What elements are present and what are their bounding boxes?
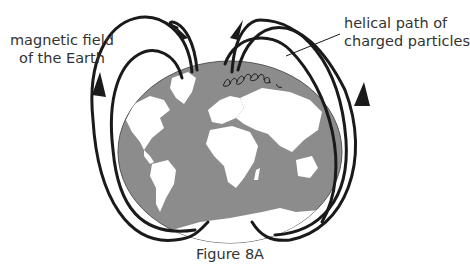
- magnetic-field-label-line2: of the Earth: [10, 49, 114, 67]
- magnetic-field-label: magnetic field of the Earth: [10, 31, 114, 67]
- helix-label-pointer: [286, 34, 340, 56]
- helical-path-label-line1: helical path of: [344, 14, 470, 32]
- helical-path-label: helical path of charged particles: [344, 14, 470, 50]
- magnetic-field-label-line1: magnetic field: [10, 31, 114, 49]
- arrow-up-right-icon: [354, 82, 370, 106]
- earth-globe: [118, 61, 342, 260]
- helical-path-label-line2: charged particles: [344, 32, 470, 50]
- figure-caption: Figure 8A: [196, 246, 264, 262]
